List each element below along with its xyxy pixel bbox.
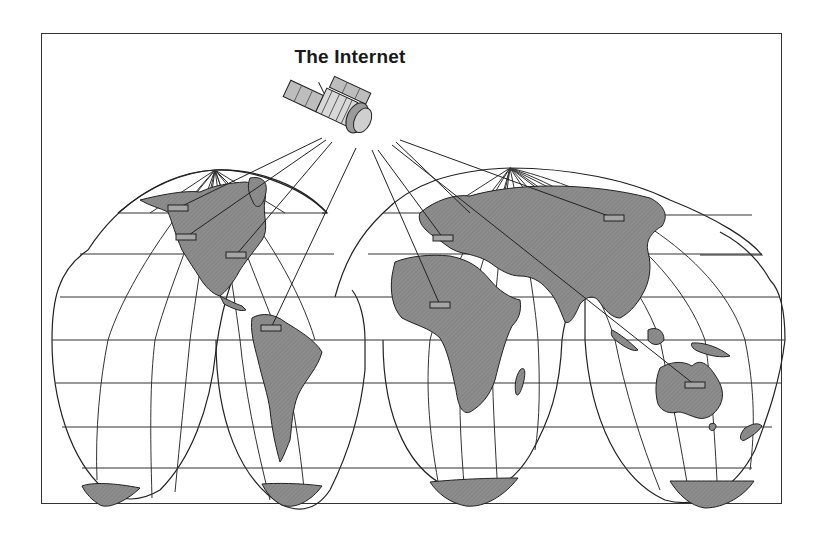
node-western-north-america xyxy=(176,234,196,240)
node-australia xyxy=(685,382,705,388)
land-antarctica-2 xyxy=(262,483,322,506)
land-borneo xyxy=(648,328,664,344)
land-antarctica-1 xyxy=(82,484,140,507)
lobe-south-pacific xyxy=(52,250,232,499)
land-north-america xyxy=(140,182,266,296)
land-africa xyxy=(391,255,520,412)
satellite-icon xyxy=(282,60,382,138)
land-new-guinea xyxy=(691,343,730,357)
land-new-zealand xyxy=(740,424,762,441)
node-siberia xyxy=(604,215,624,221)
land-tasmania xyxy=(709,423,716,430)
node-eastern-north-america xyxy=(226,252,246,258)
parallels xyxy=(52,213,785,468)
node-europe xyxy=(433,235,453,241)
map-lobes xyxy=(52,168,785,509)
node-south-america xyxy=(261,325,281,331)
node-africa xyxy=(430,302,450,308)
node-alaska-canada xyxy=(168,205,188,211)
land-antarctica-4 xyxy=(670,481,754,508)
land-australia xyxy=(656,362,723,418)
land-antarctica-3 xyxy=(430,478,518,506)
land-south-america xyxy=(251,315,322,462)
world-map xyxy=(0,0,840,560)
land-madagascar xyxy=(515,368,525,395)
